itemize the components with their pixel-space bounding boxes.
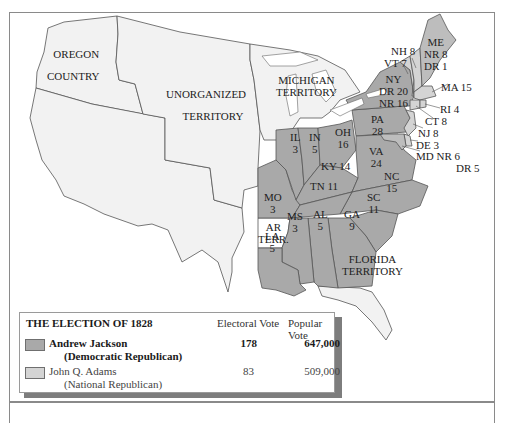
legend-swatch-jackson <box>25 339 45 351</box>
label-state-nh: NH 8 <box>391 45 415 57</box>
legend-candidate-jackson: Andrew Jackson <box>49 337 127 349</box>
legend-electoral-adams: 83 <box>220 365 254 377</box>
legend-candidate-adams: John Q. Adams <box>49 365 117 377</box>
state-ct <box>410 100 420 110</box>
leader-ri <box>425 104 440 108</box>
label-state-ri: RI 4 <box>440 103 459 115</box>
label-state-in: IN5 <box>309 131 321 155</box>
label-michigan-territory: MICHIGAN TERRITORY <box>276 74 337 98</box>
label-state-va: VA24 <box>369 145 383 169</box>
label-unorganized-territory: UNORGANIZED TERRITORY <box>166 88 246 122</box>
label-state-al: AL5 <box>313 208 328 232</box>
legend-party-adams: (National Republican) <box>64 378 162 390</box>
label-state-ct: CT 8 <box>425 115 447 127</box>
label-state-sc: SC11 <box>367 191 380 215</box>
label-oregon-country: OREGON COUNTRY <box>53 48 100 82</box>
label-state-tn: TN 11 <box>310 180 338 192</box>
label-state-ny: NYDR 20NR 16 <box>379 73 408 109</box>
legend-header-electoral: Electoral Vote <box>217 317 279 329</box>
legend-popular-adams: 509,000 <box>280 365 340 377</box>
label-state-il: IL3 <box>290 131 300 155</box>
label-state-nc: NC15 <box>384 170 399 194</box>
label-state-ms: MS3 <box>287 210 303 234</box>
legend-party-jackson: (Democratic Republican) <box>64 350 182 362</box>
legend-title: THE ELECTION OF 1828 <box>26 317 152 329</box>
label-state-me: MENR 8DR 1 <box>424 36 448 72</box>
label-state-md: MD NR 6 DR 5 <box>416 150 480 174</box>
label-state-la: LA5 <box>265 230 280 254</box>
legend-popular-jackson: 647,000 <box>280 337 340 349</box>
legend-swatch-adams <box>25 367 45 379</box>
label-state-mo: MO3 <box>264 191 282 215</box>
label-state-vt: VT 7 <box>384 57 407 69</box>
label-florida-territory: FLORIDA TERRITORY <box>342 253 403 277</box>
label-state-oh: OH16 <box>335 126 351 150</box>
label-state-pa: PA28 <box>371 113 384 137</box>
label-state-ga: GA9 <box>344 208 360 232</box>
label-state-ky: KY 14 <box>321 160 350 172</box>
label-state-ma: MA 15 <box>441 81 472 93</box>
legend-electoral-jackson: 178 <box>220 337 257 349</box>
legend-box: THE ELECTION OF 1828 Electoral Vote Popu… <box>19 312 335 393</box>
label-state-nj: NJ 8 <box>418 127 438 139</box>
